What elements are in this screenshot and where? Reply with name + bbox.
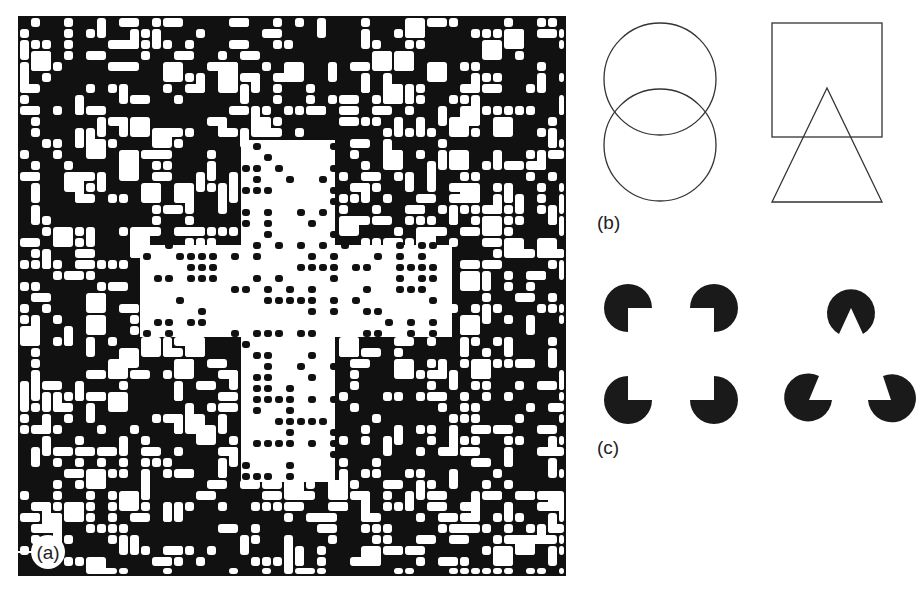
pacman-triangle-top <box>827 289 875 334</box>
circle-bottom <box>604 89 716 201</box>
panel-a: (a) <box>18 16 566 576</box>
panel-c: (c) <box>597 284 916 458</box>
pacman-bottom-right <box>690 376 738 424</box>
figure: (a) (b) (c) <box>0 0 919 590</box>
triangle-outline <box>772 88 882 202</box>
panel-c-label: (c) <box>597 437 619 458</box>
pacman-triangle-left <box>784 373 832 421</box>
panel-a-label: (a) <box>36 542 59 563</box>
square-outline <box>772 23 882 137</box>
pacman-bottom-left <box>604 376 652 424</box>
pacman-top-right <box>690 284 738 332</box>
panel-b-label: (b) <box>597 212 620 233</box>
panel-b: (b) <box>597 23 882 233</box>
pacman-top-left <box>604 284 652 332</box>
pacman-triangle-right <box>868 374 916 422</box>
circle-top <box>604 23 716 135</box>
